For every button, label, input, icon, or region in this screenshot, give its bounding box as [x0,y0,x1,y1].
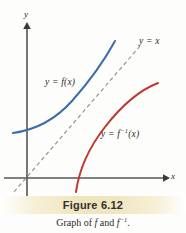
identity-line-y-equals-x [14,46,140,192]
y-axis-arrow [23,22,31,29]
figure-caption-band: Figure 6.12 [0,196,186,214]
figure-number: Figure 6.12 [63,199,123,211]
curve-f-inverse-label-tail: (x) [128,129,139,139]
plot-area: y x y = f(x) y = x y = f−1(x) [0,0,186,196]
curve-f-inverse-label: y = f−1(x) [101,128,139,140]
curve-f-inverse-label-base: y = f [101,129,120,139]
identity-line-label: y = x [139,37,160,47]
caption-conjunction: and [97,217,116,228]
curve-f-inverse-label-exponent: −1 [120,127,128,134]
figure-container: y x y = f(x) y = x y = f−1(x) Figure 6.1… [0,0,186,233]
y-axis-label: y [24,10,28,19]
figure-caption: Graph of f and f−1. [0,216,186,229]
curve-f-label: y = f(x) [45,78,75,88]
x-axis-label: x [171,172,175,181]
caption-prefix: Graph of [56,217,94,228]
caption-period: . [127,217,130,228]
graph-svg [0,0,186,196]
x-axis-arrow [163,174,170,182]
y-axis [23,22,31,196]
